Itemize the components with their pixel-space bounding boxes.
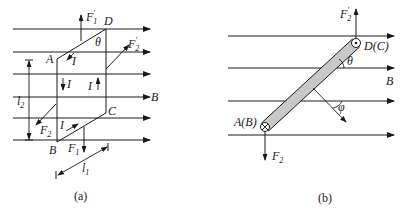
vertex-c-label: C: [108, 104, 117, 118]
caption-b: (b): [318, 191, 332, 205]
current-out-dot: [355, 42, 358, 45]
figure-b: B θ φ F2′ F2 D(C) A(B) (b): [228, 6, 394, 205]
current-label: I: [59, 118, 65, 132]
rod-body: [262, 39, 360, 131]
caption-a: (a): [74, 189, 87, 203]
angle-theta-label: θ: [347, 54, 353, 68]
current-label: I: [87, 79, 93, 93]
top-end-label: D(C): [363, 39, 389, 53]
angle-theta-label: θ: [95, 35, 101, 49]
force-f2-prime-arrow: [106, 45, 129, 69]
figure-a: B A D C B θ I I I I F1′ F2′: [13, 9, 159, 203]
field-label-b: B: [386, 74, 394, 88]
rod: [261, 39, 361, 132]
force-f1-label: F1: [67, 141, 79, 157]
vertex-a-label: A: [45, 52, 54, 66]
dimension-l1-label: l1: [82, 161, 89, 177]
dimension-l2-label: l2: [17, 94, 24, 110]
vertex-d-label: D: [103, 14, 113, 28]
force-f2-arrow: [36, 104, 56, 125]
current-arrows: I I I I: [59, 53, 98, 132]
force-f2-prime-label: F2′: [339, 6, 351, 23]
current-label: I: [66, 77, 72, 91]
figure-canvas: B A D C B θ I I I I F1′ F2′: [0, 0, 407, 212]
force-f2-label: F2: [271, 149, 283, 165]
current-arrow-bc: [66, 124, 78, 131]
current-label: I: [71, 54, 77, 68]
side-bc: [57, 113, 106, 142]
angle-phi-label: φ: [338, 100, 345, 114]
force-f2-label: F2: [39, 123, 51, 139]
field-label-b: B: [151, 90, 159, 104]
force-f2-prime-label: F2′: [127, 36, 139, 53]
dimension-l1: l1: [56, 143, 108, 179]
force-f1-prime-label: F1′: [85, 9, 97, 26]
vertex-b-label: B: [49, 143, 57, 157]
bottom-end-label: A(B): [233, 115, 257, 129]
dimension-l2: l2: [17, 60, 33, 140]
